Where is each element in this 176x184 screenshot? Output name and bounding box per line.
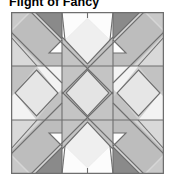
unit-middle-right — [113, 66, 164, 120]
page-root: Flight of Fancy — [0, 0, 176, 184]
unit-middle-left — [11, 66, 62, 120]
unit-top-center — [62, 12, 113, 66]
quilt-block-figure — [11, 12, 164, 174]
unit-center — [62, 66, 113, 120]
unit-bottom-center — [62, 120, 113, 174]
quilt-block-diagram — [11, 12, 164, 174]
page-title: Flight of Fancy — [9, 0, 169, 9]
